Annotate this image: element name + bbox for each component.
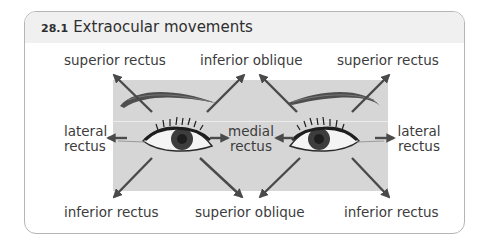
label-inferior-oblique: inferior oblique bbox=[200, 53, 303, 68]
label-medial-rectus: medial rectus bbox=[228, 124, 274, 154]
label-line-1: lateral bbox=[396, 124, 442, 139]
left-eye bbox=[118, 117, 212, 151]
arrow-inferior-oblique-right bbox=[260, 75, 297, 112]
right-eye bbox=[290, 117, 384, 151]
arrow-inferior-rectus-right bbox=[352, 158, 389, 197]
label-line-2: rectus bbox=[64, 139, 100, 154]
label-superior-rectus-right: superior rectus bbox=[337, 53, 439, 68]
label-lateral-rectus-left: lateral rectus bbox=[64, 124, 100, 154]
label-line-2: rectus bbox=[396, 139, 442, 154]
label-lateral-rectus-right: lateral rectus bbox=[396, 124, 442, 154]
arrow-inferior-oblique-left bbox=[207, 75, 244, 112]
arrow-inferior-rectus-left bbox=[114, 158, 152, 197]
arrow-superior-oblique-right bbox=[260, 158, 300, 197]
label-superior-rectus-left: superior rectus bbox=[64, 53, 166, 68]
label-line-2: rectus bbox=[228, 139, 274, 154]
arrow-superior-oblique-left bbox=[200, 158, 242, 197]
label-superior-oblique: superior oblique bbox=[195, 205, 305, 220]
eyes-illustration bbox=[0, 0, 486, 238]
label-inferior-rectus-left: inferior rectus bbox=[64, 205, 159, 220]
label-line-1: lateral bbox=[64, 124, 100, 139]
label-line-1: medial bbox=[228, 124, 274, 139]
label-inferior-rectus-right: inferior rectus bbox=[344, 205, 439, 220]
arrow-superior-rectus-right bbox=[352, 75, 389, 112]
